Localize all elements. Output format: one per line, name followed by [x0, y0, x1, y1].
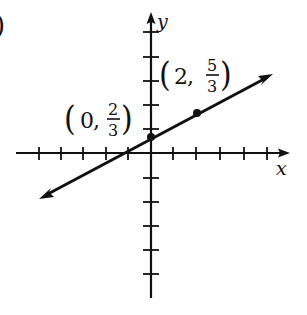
svg-text:2: 2 [174, 64, 188, 89]
point-y-intercept [147, 133, 155, 141]
point-label-2-5-3: ( 2 , 5 3 ) [159, 54, 232, 96]
point-2-5-3 [193, 109, 201, 117]
svg-text:3: 3 [108, 121, 118, 140]
svg-text:0: 0 [80, 108, 94, 133]
x-axis: x [16, 147, 290, 179]
svg-text:(: ( [159, 54, 171, 94]
svg-text:): ) [220, 54, 232, 94]
svg-text:): ) [121, 98, 133, 138]
point-label-0-2-3: ( 0 , 2 3 ) [64, 98, 133, 140]
svg-text:3: 3 [207, 77, 217, 96]
part-marker: ) [0, 10, 5, 40]
y-axis-label: y [156, 10, 168, 32]
svg-text:5: 5 [207, 56, 217, 75]
x-axis-label: x [276, 157, 287, 179]
coordinate-graph: ) x [0, 0, 307, 315]
svg-text:,: , [93, 108, 100, 133]
svg-text:(: ( [64, 98, 76, 138]
svg-text:,: , [187, 64, 194, 89]
svg-text:2: 2 [108, 100, 118, 119]
